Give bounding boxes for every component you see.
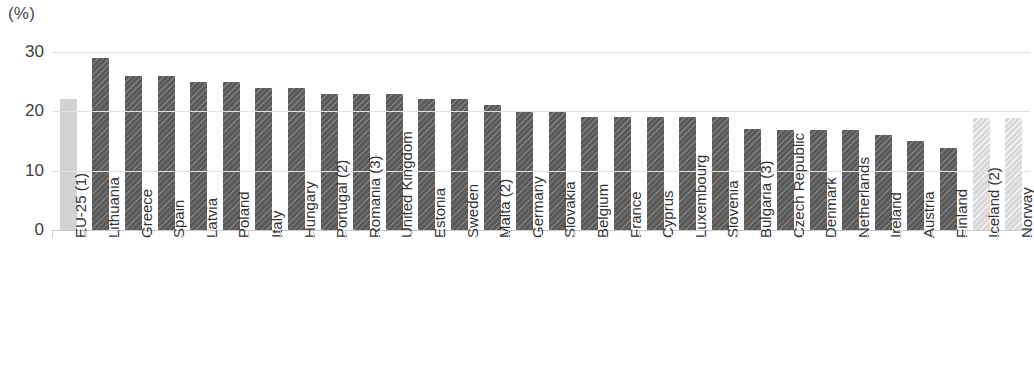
x-category-label: Estonia: [432, 188, 447, 238]
x-tick-mark: [639, 231, 640, 238]
x-category-label-text: Sweden: [465, 184, 480, 238]
x-category-label-text: Bulgaria (3): [758, 160, 773, 238]
gridline-10: [52, 171, 1030, 172]
x-category-label-text: Estonia: [432, 188, 447, 238]
x-tick-mark: [117, 231, 118, 238]
x-category-label-text: Slovakia: [562, 181, 577, 238]
y-tick-label: 30: [4, 42, 44, 62]
x-category-label-text: France: [628, 191, 643, 238]
x-category-label-text: Malta (2): [497, 179, 512, 238]
y-tick-label: 10: [4, 161, 44, 181]
x-category-label: Ireland: [888, 192, 903, 238]
x-tick-mark: [1030, 231, 1031, 238]
x-category-label: Belgium: [595, 184, 610, 238]
x-category-label-text: Portugal (2): [334, 160, 349, 238]
x-category-label: Lithuania: [106, 177, 121, 238]
x-tick-mark: [443, 231, 444, 238]
x-category-label-text: Romania (3): [367, 155, 382, 238]
gridline-30: [52, 52, 1030, 53]
x-tick-mark: [737, 231, 738, 238]
gridline-20: [52, 111, 1030, 112]
x-tick-mark: [574, 231, 575, 238]
x-category-label: United Kingdom: [399, 131, 414, 238]
x-category-label-text: Lithuania: [106, 177, 121, 238]
x-category-label-text: Luxembourg: [693, 155, 708, 238]
x-category-label: Netherlands: [856, 157, 871, 238]
x-category-label-text: Germany: [530, 176, 545, 238]
x-tick-mark: [704, 231, 705, 238]
x-category-label-text: Netherlands: [856, 157, 871, 238]
bar: [255, 88, 272, 230]
x-category-label-text: Cyprus: [660, 190, 675, 238]
x-category-label-text: Latvia: [204, 198, 219, 238]
x-tick-mark: [900, 231, 901, 238]
x-category-label-text: Spain: [171, 200, 186, 238]
y-axis-tick-labels: 0102030: [0, 52, 44, 230]
x-category-label: Hungary: [302, 181, 317, 238]
x-category-label-text: United Kingdom: [399, 131, 414, 238]
x-tick-mark: [182, 231, 183, 238]
x-category-label-text: EU-25 (1): [73, 173, 88, 238]
x-category-label-text: Greece: [139, 189, 154, 238]
x-category-label: Spain: [171, 200, 186, 238]
x-tick-mark: [965, 231, 966, 238]
x-category-label: Finland: [954, 189, 969, 238]
x-tick-mark: [541, 231, 542, 238]
x-tick-mark: [769, 231, 770, 238]
x-tick-mark: [411, 231, 412, 238]
x-category-label: Luxembourg: [693, 155, 708, 238]
x-tick-mark: [476, 231, 477, 238]
x-category-label: Poland: [236, 191, 251, 238]
x-category-label-text: Ireland: [888, 192, 903, 238]
x-category-label: Romania (3): [367, 155, 382, 238]
x-category-label-text: Italy: [269, 210, 284, 238]
x-tick-mark: [834, 231, 835, 238]
x-category-label-text: Czech Republic: [791, 133, 806, 238]
x-category-label: Malta (2): [497, 179, 512, 238]
x-category-label: Iceland (2): [986, 167, 1001, 238]
x-tick-mark: [313, 231, 314, 238]
x-category-label: France: [628, 191, 643, 238]
x-category-label-text: Slovenia: [725, 180, 740, 238]
x-tick-mark: [932, 231, 933, 238]
bar-chart: (%) 0102030 EU-25 (1)LithuaniaGreeceSpai…: [0, 0, 1034, 369]
x-tick-mark: [378, 231, 379, 238]
x-tick-mark: [52, 231, 53, 238]
x-tick-mark: [508, 231, 509, 238]
x-category-label: Greece: [139, 189, 154, 238]
x-category-label: Austria: [921, 191, 936, 238]
x-category-label: Cyprus: [660, 190, 675, 238]
x-tick-mark: [802, 231, 803, 238]
x-category-label: Bulgaria (3): [758, 160, 773, 238]
x-category-label-text: Austria: [921, 191, 936, 238]
x-tick-mark: [280, 231, 281, 238]
x-tick-mark: [345, 231, 346, 238]
x-category-label-text: Poland: [236, 191, 251, 238]
x-tick-mark: [215, 231, 216, 238]
x-tick-mark: [85, 231, 86, 238]
x-category-label: Latvia: [204, 198, 219, 238]
x-category-label: Sweden: [465, 184, 480, 238]
x-tick-mark: [997, 231, 998, 238]
x-category-label-text: Iceland (2): [986, 167, 1001, 238]
y-tick-label: 0: [4, 220, 44, 240]
x-category-label: Slovenia: [725, 180, 740, 238]
x-category-label: Germany: [530, 176, 545, 238]
x-category-label: EU-25 (1): [73, 173, 88, 238]
x-tick-mark: [867, 231, 868, 238]
y-tick-label: 20: [4, 101, 44, 121]
x-category-label: Portugal (2): [334, 160, 349, 238]
x-category-label: Italy: [269, 210, 284, 238]
y-axis-unit-label: (%): [8, 4, 35, 24]
x-tick-mark: [150, 231, 151, 238]
x-category-label-text: Denmark: [823, 177, 838, 238]
x-category-label-text: Hungary: [302, 181, 317, 238]
x-category-label: Norway: [1019, 187, 1034, 238]
x-category-label: Denmark: [823, 177, 838, 238]
x-tick-mark: [248, 231, 249, 238]
x-category-label: Czech Republic: [791, 133, 806, 238]
x-tick-mark: [606, 231, 607, 238]
x-category-label-text: Norway: [1019, 187, 1034, 238]
x-category-label-text: Belgium: [595, 184, 610, 238]
x-category-label-text: Finland: [954, 189, 969, 238]
